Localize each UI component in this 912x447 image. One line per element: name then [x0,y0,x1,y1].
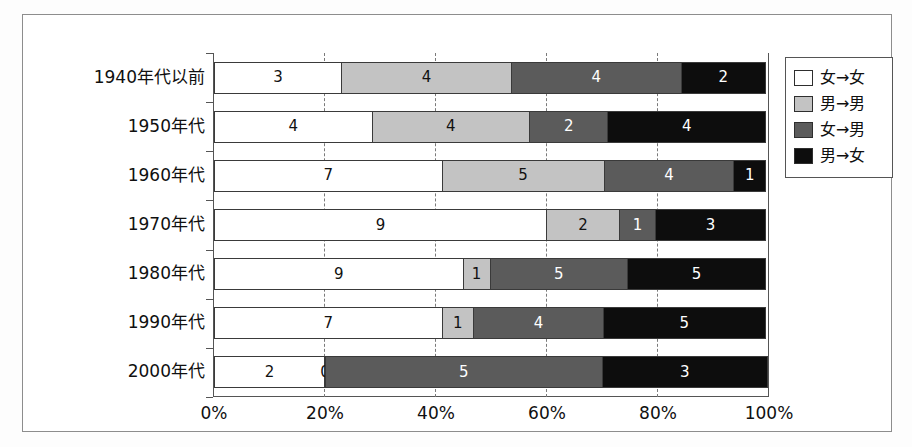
bar-segment: 3 [602,356,769,388]
bar-value-label: 9 [334,267,344,282]
x-axis-labels: 0%20%40%60%80%100% [213,403,769,429]
bar-segment: 4 [341,62,512,94]
y-axis-tick [206,348,213,349]
figure-frame: 1940年代以前1950年代1960年代1970年代1980年代1990年代20… [22,14,892,432]
bar-segment: 4 [214,111,373,143]
bar-value-label: 9 [376,218,386,233]
bar-segment: 1 [733,160,766,192]
bar-segment: 4 [473,307,604,339]
y-axis-tick [206,151,213,152]
bar-segment: 9 [214,258,464,290]
y-axis-category-label: 1940年代以前 [94,69,205,86]
bar-value-label: 5 [680,316,690,331]
bar-segment: 3 [655,209,766,241]
legend-item[interactable]: 男→男 [794,91,884,117]
legend-label: 女→女 [820,70,865,86]
y-axis-category-label: 1970年代 [128,216,205,233]
bar-segment: 5 [490,258,629,290]
bar-row: 3442 [214,62,769,94]
bar-row: 7145 [214,307,769,339]
bar-segment: 5 [325,356,603,388]
bar-segment: 5 [442,160,605,192]
bar-value-label: 4 [289,119,299,134]
bar-segment: 5 [627,258,766,290]
bar-value-label: 3 [706,218,716,233]
bar-value-label: 4 [664,168,674,183]
y-axis-tick [206,250,213,251]
bar-segment: 2 [546,209,620,241]
bar-segment: 1 [619,209,656,241]
bar-segment: 2 [681,62,766,94]
x-axis-tick-label: 60% [528,403,566,423]
bar-value-label: 5 [459,365,469,380]
bar-value-label: 1 [633,218,643,233]
bar-value-label: 4 [422,70,432,85]
bar-segment: 4 [607,111,766,143]
bar-value-label: 7 [323,316,333,331]
y-axis-category-label: 1950年代 [128,118,205,135]
x-axis-tick-label: 20% [306,403,344,423]
bar-value-label: 4 [682,119,692,134]
bar-value-label: 5 [554,267,564,282]
bar-segment: 4 [372,111,531,143]
y-axis-category-label: 2000年代 [128,363,205,380]
bar-row: 9213 [214,209,769,241]
y-axis-tick [206,53,213,54]
bar-segment: 7 [214,160,443,192]
x-axis-tick-label: 80% [639,403,677,423]
legend: 女→女男→男女→男男→女 [785,57,893,178]
x-axis-tick-label: 0% [201,403,228,423]
bar-value-label: 1 [453,316,463,331]
legend-swatch-icon [794,96,813,112]
legend-item[interactable]: 男→女 [794,143,884,169]
y-axis-labels: 1940年代以前1950年代1960年代1970年代1980年代1990年代20… [23,53,205,397]
y-axis-category-label: 1960年代 [128,167,205,184]
bar-value-label: 2 [564,119,574,134]
legend-swatch-icon [794,70,813,86]
bar-value-label: 5 [692,267,702,282]
bar-value-label: 1 [472,267,482,282]
bar-row: 4424 [214,111,769,143]
y-axis-tick [206,397,213,398]
bar-segment: 3 [214,62,342,94]
legend-label: 女→男 [820,122,865,138]
bar-segment: 7 [214,307,443,339]
y-axis-tick [206,102,213,103]
bar-row: 2053 [214,356,769,388]
y-axis-category-label: 1990年代 [128,314,205,331]
bar-row: 7541 [214,160,769,192]
bar-value-label: 1 [745,168,755,183]
x-axis-line [213,396,769,397]
bar-segment: 4 [604,160,735,192]
bar-value-label: 4 [591,70,601,85]
y-axis-tick [206,299,213,300]
bar-value-label: 3 [680,365,690,380]
legend-swatch-icon [794,122,813,138]
bar-segment: 1 [463,258,491,290]
bar-segment: 2 [529,111,608,143]
plot-area: 3442442475419213915571452053 [213,53,769,397]
x-axis-tick-label: 100% [745,403,794,423]
bar-value-label: 5 [518,168,528,183]
bar-value-label: 3 [273,70,283,85]
legend-item[interactable]: 女→女 [794,65,884,91]
legend-swatch-icon [794,148,813,164]
bar-segment: 5 [603,307,766,339]
bar-segment: 2 [214,356,325,388]
bar-value-label: 4 [534,316,544,331]
bar-segment: 9 [214,209,547,241]
bar-value-label: 4 [446,119,456,134]
chart-page: 1940年代以前1950年代1960年代1970年代1980年代1990年代20… [0,0,912,447]
y-axis-category-label: 1980年代 [128,265,205,282]
bar-value-label: 2 [719,70,729,85]
legend-label: 男→女 [820,148,865,164]
bar-value-label: 2 [578,218,588,233]
bar-segment: 1 [442,307,475,339]
bar-value-label: 7 [323,168,333,183]
y-axis-tick [206,200,213,201]
bar-value-label: 2 [265,365,275,380]
bar-row: 9155 [214,258,769,290]
legend-item[interactable]: 女→男 [794,117,884,143]
bar-segment: 4 [511,62,682,94]
x-axis-tick-label: 40% [417,403,455,423]
